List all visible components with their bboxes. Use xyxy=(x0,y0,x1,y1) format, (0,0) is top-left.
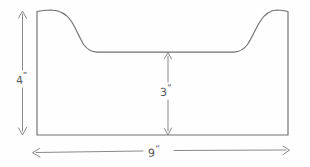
outer-height-label: 4” xyxy=(13,70,31,87)
sketch-drawing xyxy=(0,0,310,167)
width-label: 9” xyxy=(146,144,162,160)
inch-mark-icon: ” xyxy=(167,83,172,93)
inch-mark-icon: ” xyxy=(22,70,28,80)
sketch-canvas: 4” 3” 9” xyxy=(0,0,310,167)
inner-height-label: 3” xyxy=(158,83,175,99)
inch-mark-icon: ” xyxy=(155,144,160,154)
trough-profile-outline xyxy=(37,10,288,135)
width-dimension-line-left xyxy=(36,151,143,153)
width-dimension-line-right xyxy=(174,150,286,151)
